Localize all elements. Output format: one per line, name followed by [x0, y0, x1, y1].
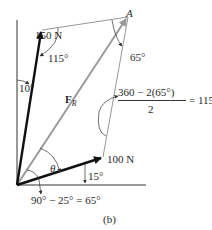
fraction-result: = 115° — [189, 94, 212, 106]
fraction-bar — [118, 100, 186, 101]
theta-label: θ — [50, 163, 55, 174]
angle-10-label: 10° — [19, 83, 34, 94]
point-a-label: A — [126, 8, 133, 19]
fraction-denominator: 2 — [148, 103, 154, 115]
fraction-numerator: 360 − 2(65°) — [118, 86, 174, 98]
figure-caption: (b) — [103, 214, 116, 225]
angle-65-at-a-label: 65° — [130, 52, 145, 63]
resultant-subscript: R — [72, 99, 77, 108]
force-150n-label: 150 N — [35, 30, 62, 41]
angle-15-label: 15° — [88, 171, 103, 182]
resultant-label: FR — [65, 94, 77, 108]
origin-angle-equation: 90° − 25° = 65° — [31, 195, 101, 206]
resultant-symbol: F — [65, 93, 72, 105]
force-150n-arrow — [17, 32, 41, 185]
force-100n-label: 100 N — [107, 154, 134, 165]
angle-115-label: 115° — [48, 53, 69, 64]
